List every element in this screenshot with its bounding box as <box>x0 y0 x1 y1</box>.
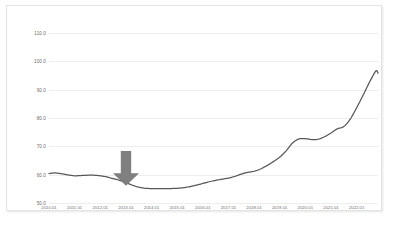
x-axis-tick-label: 2017.01 <box>221 205 237 210</box>
y-axis-tick-label: 70.0 <box>37 144 46 149</box>
y-axis-tick-label: 80.0 <box>37 116 46 121</box>
y-axis-tick-label: 60.0 <box>37 172 46 177</box>
x-axis-tick-label: 2018.01 <box>246 205 262 210</box>
x-axis-tick-label: 2015.01 <box>169 205 185 210</box>
chart-container: 110.0100.090.080.070.060.050.0 2010.0120… <box>6 5 382 211</box>
y-axis-tick-label: 100.0 <box>34 59 46 64</box>
down-arrow-annotation <box>113 151 139 186</box>
series-polyline <box>49 71 378 189</box>
arrow-icon <box>113 151 139 186</box>
line-series <box>49 33 378 203</box>
x-axis-tick-label: 2011.01 <box>67 205 82 210</box>
y-axis-tick-label: 110.0 <box>34 31 46 36</box>
chart-page: 110.0100.090.080.070.060.050.0 2010.0120… <box>0 0 413 231</box>
x-axis-tick-label: 2013.01 <box>118 205 134 210</box>
x-axis-tick-label: 2020.01 <box>298 205 314 210</box>
x-axis-tick-label: 2014.01 <box>144 205 160 210</box>
x-axis-tick-label: 2012.01 <box>93 205 109 210</box>
x-axis-tick-label: 2019.01 <box>272 205 288 210</box>
gridline <box>49 203 378 204</box>
x-axis-tick-label: 2010.01 <box>41 205 57 210</box>
x-axis-tick-label: 2021.01 <box>323 205 339 210</box>
plot-area: 110.0100.090.080.070.060.050.0 2010.0120… <box>49 33 378 203</box>
y-axis-tick-label: 90.0 <box>37 87 46 92</box>
x-axis-tick-label: 2016.01 <box>195 205 211 210</box>
x-axis-tick-label: 2022.01 <box>349 205 365 210</box>
